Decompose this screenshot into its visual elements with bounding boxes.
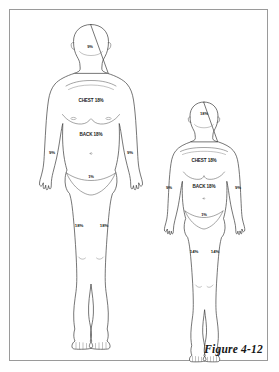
child-back-label: BACK 18% bbox=[193, 185, 216, 190]
adult-figure bbox=[39, 25, 142, 350]
child-left-arm-percent: 9% bbox=[235, 186, 241, 190]
child-chest-label: CHEST 18% bbox=[191, 159, 216, 164]
child-figure bbox=[164, 102, 244, 362]
child-groin-percent: 1% bbox=[201, 213, 207, 217]
child-left-leg-percent: 14% bbox=[211, 250, 219, 254]
adult-left-arm-percent: 9% bbox=[127, 151, 133, 155]
child-right-arm-percent: 9% bbox=[166, 186, 172, 190]
child-torso bbox=[164, 142, 244, 362]
adult-back-label: BACK 18% bbox=[80, 133, 103, 138]
figure-caption: Figure 4-12 bbox=[204, 343, 263, 355]
child-right-leg-percent: 14% bbox=[190, 250, 198, 254]
adult-right-arm-percent: 9% bbox=[49, 151, 55, 155]
adult-groin-percent: 1% bbox=[88, 175, 94, 179]
adult-left-leg-percent: 18% bbox=[100, 224, 108, 228]
figure-page: 9% CHEST 18% BACK 18% 9% 9% 1% 18% 18% 1… bbox=[0, 0, 279, 372]
child-head-percent: 18% bbox=[200, 112, 208, 116]
adult-right-leg-percent: 18% bbox=[75, 224, 83, 228]
adult-chest-label: CHEST 18% bbox=[78, 99, 103, 104]
child-head bbox=[190, 102, 218, 142]
adult-torso bbox=[39, 74, 142, 350]
adult-head-percent: 9% bbox=[87, 45, 93, 49]
